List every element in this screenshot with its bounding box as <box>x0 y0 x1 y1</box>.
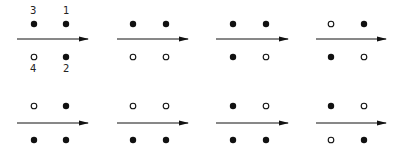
label-position-4: 4 <box>30 63 36 74</box>
open-dot-bottom-right <box>263 54 269 60</box>
filled-dot-top-right <box>63 103 69 109</box>
open-dot-bottom-right <box>361 54 367 60</box>
panel-4 <box>316 21 386 60</box>
filled-dot-bottom-right <box>63 54 69 60</box>
open-dot-top-left <box>328 21 334 27</box>
panel-2 <box>117 21 188 60</box>
filled-dot-top-left <box>230 21 236 27</box>
filled-dot-bottom-left <box>230 137 236 143</box>
open-dot-bottom-left <box>130 54 136 60</box>
open-dot-bottom-right <box>163 54 169 60</box>
open-dot-bottom-left <box>328 137 334 143</box>
filled-dot-top-left <box>328 103 334 109</box>
open-dot-bottom-left <box>31 54 37 60</box>
filled-dot-top-right <box>263 21 269 27</box>
open-dot-top-right <box>163 103 169 109</box>
filled-dot-bottom-right <box>263 137 269 143</box>
filled-dot-bottom-right <box>63 137 69 143</box>
label-position-2: 2 <box>63 63 69 74</box>
filled-dot-top-left <box>130 21 136 27</box>
filled-dot-bottom-left <box>328 54 334 60</box>
filled-dot-bottom-left <box>230 54 236 60</box>
label-position-3: 3 <box>30 5 36 16</box>
filled-dot-bottom-left <box>130 137 136 143</box>
filled-dot-bottom-right <box>361 137 367 143</box>
dot-pattern-diagram: 3 1 4 2 <box>0 0 406 154</box>
open-dot-top-right <box>361 103 367 109</box>
filled-dot-top-left <box>31 21 37 27</box>
filled-dot-top-left <box>230 103 236 109</box>
filled-dot-top-right <box>361 21 367 27</box>
panel-7 <box>216 103 288 143</box>
label-position-1: 1 <box>63 5 69 16</box>
filled-dot-bottom-right <box>163 137 169 143</box>
panel-8 <box>316 103 386 143</box>
panel-6 <box>117 103 188 143</box>
panel-5 <box>17 103 88 143</box>
open-dot-top-left <box>130 103 136 109</box>
open-dot-top-right <box>263 103 269 109</box>
panel-1 <box>17 21 88 60</box>
filled-dot-bottom-left <box>31 137 37 143</box>
open-dot-top-left <box>31 103 37 109</box>
filled-dot-top-right <box>163 21 169 27</box>
panel-3 <box>216 21 288 60</box>
filled-dot-top-right <box>63 21 69 27</box>
